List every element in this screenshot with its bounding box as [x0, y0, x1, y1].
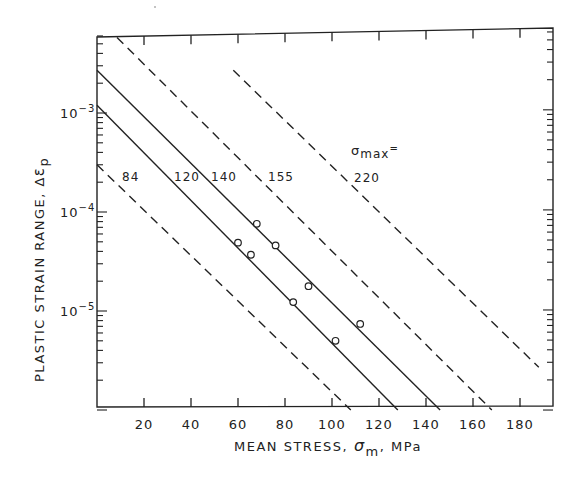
data-point	[332, 338, 339, 345]
curve-labels: σmax= 84120140155220	[122, 143, 399, 185]
sigma-max-label: σmax=	[351, 143, 399, 161]
speck	[154, 6, 156, 8]
series-line-220	[233, 70, 539, 367]
curve-label-140: 140	[211, 170, 237, 184]
x-tick-label: 140	[412, 417, 440, 432]
curve-label-155: 155	[268, 170, 294, 184]
curve-label-84: 84	[122, 170, 139, 184]
y-axis-title: PLASTIC STRAIN RANGE, Δεp	[30, 157, 51, 382]
x-tick-label: 60	[229, 417, 248, 432]
y-tick-label: 10−4	[60, 202, 95, 220]
curve-label-220: 220	[354, 171, 380, 185]
data-point	[235, 239, 242, 246]
data-point	[248, 251, 255, 258]
x-tick-label: 100	[318, 417, 346, 432]
x-tick-label: 80	[276, 417, 295, 432]
series-lines	[97, 37, 539, 410]
chart: 20406080100120140160180 10−510−410−3 σma…	[0, 0, 583, 482]
y-axis: 10−510−410−3	[60, 32, 553, 410]
x-tick-label: 120	[365, 417, 393, 432]
curve-label-120: 120	[174, 170, 200, 184]
y-tick-label: 10−5	[60, 301, 95, 319]
x-axis-title: MEAN STRESS, σm, MPa	[234, 436, 422, 459]
data-point	[253, 220, 260, 227]
x-tick-label: 180	[506, 417, 534, 432]
x-tick-label: 160	[459, 417, 487, 432]
data-point	[357, 321, 364, 328]
series-line-155	[117, 37, 492, 410]
y-tick-label: 10−3	[60, 103, 95, 121]
x-axis: 20406080100120140160180	[135, 29, 534, 432]
data-point	[305, 283, 312, 290]
data-point	[272, 242, 279, 249]
data-point	[290, 299, 297, 306]
x-tick-label: 20	[135, 417, 154, 432]
series-line-84	[97, 165, 351, 410]
data-points	[235, 220, 364, 344]
x-tick-label: 40	[182, 417, 201, 432]
series-line-140	[97, 70, 440, 410]
